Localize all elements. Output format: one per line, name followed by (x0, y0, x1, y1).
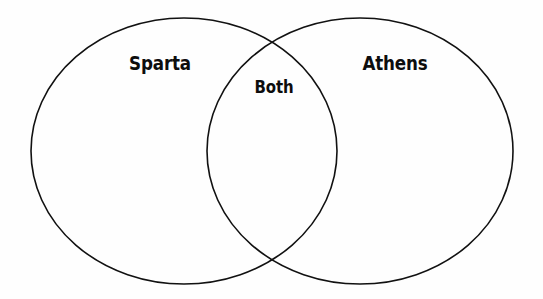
venn-diagram-canvas: Sparta Both Athens (0, 0, 543, 299)
venn-label-intersection: Both (248, 79, 301, 96)
venn-label-right-set: Athens (360, 54, 430, 73)
venn-circles-graphic (0, 0, 543, 299)
venn-label-left-set: Sparta (125, 54, 195, 73)
